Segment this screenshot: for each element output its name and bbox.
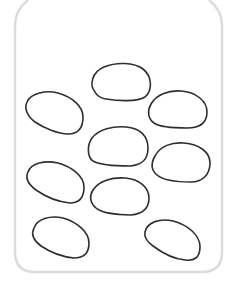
jar-outline [15, 0, 222, 272]
stone-center-lower[interactable] [91, 178, 149, 215]
stone-top-center[interactable] [92, 63, 150, 100]
stone-center[interactable] [88, 127, 148, 166]
stone-right-upper[interactable] [149, 91, 207, 128]
stone-right-bottom[interactable] [145, 220, 200, 260]
jar-scene [0, 0, 229, 282]
stone-left-upper[interactable] [26, 92, 83, 134]
stone-right-middle[interactable] [152, 143, 210, 182]
stone-left-bottom[interactable] [33, 217, 89, 258]
stone-left-middle[interactable] [27, 162, 84, 203]
stones-group [26, 63, 210, 260]
